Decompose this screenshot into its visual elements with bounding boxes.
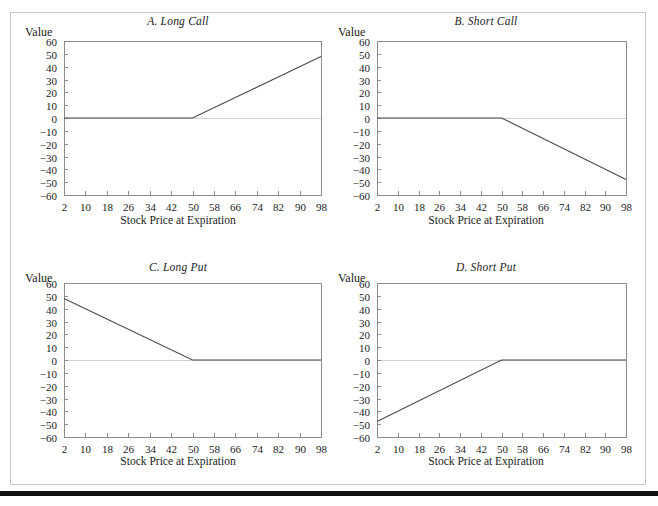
x-tick-label: 26 xyxy=(123,443,135,455)
x-tick-label: 18 xyxy=(414,443,426,455)
y-tick-label: 50 xyxy=(46,49,58,61)
x-tick-label: 58 xyxy=(517,201,529,213)
x-tick-label: 74 xyxy=(252,443,264,455)
y-tick-label: −30 xyxy=(353,394,371,406)
x-tick-label: 2 xyxy=(62,443,68,455)
plot-svg-c: 6050403020100−10−20−30−40−50−60210182634… xyxy=(23,261,333,456)
y-tick-label: 30 xyxy=(359,75,371,87)
chart-panel-long-put: C. Long Put Value 6050403020100−10−20−30… xyxy=(23,261,333,485)
x-tick-label: 74 xyxy=(559,443,571,455)
y-tick-label: −10 xyxy=(353,368,371,380)
x-tick-label: 66 xyxy=(230,443,242,455)
y-tick-label: −30 xyxy=(353,152,371,164)
x-tick-label: 42 xyxy=(166,443,177,455)
y-tick-label: 30 xyxy=(46,317,58,329)
y-tick-label: 30 xyxy=(46,75,58,87)
y-tick-label: 50 xyxy=(359,291,371,303)
x-tick-label: 50 xyxy=(497,201,509,213)
x-tick-label: 26 xyxy=(123,201,135,213)
y-tick-label: −10 xyxy=(40,368,58,380)
y-tick-label: 40 xyxy=(46,304,58,316)
y-tick-label: 0 xyxy=(52,355,58,367)
y-tick-label: 40 xyxy=(359,62,371,74)
x-axis-title-d: Stock Price at Expiration xyxy=(336,455,636,467)
x-tick-label: 26 xyxy=(434,201,446,213)
plot-svg-b: 6050403020100−10−20−30−40−50−60210182634… xyxy=(336,15,636,215)
y-tick-label: −10 xyxy=(353,126,371,138)
y-tick-label: −20 xyxy=(353,139,371,151)
y-tick-label: 20 xyxy=(46,87,58,99)
x-tick-label: 98 xyxy=(316,443,328,455)
x-tick-label: 66 xyxy=(538,443,550,455)
x-tick-label: 2 xyxy=(62,201,68,213)
y-tick-label: −40 xyxy=(353,406,371,418)
x-tick-label: 82 xyxy=(273,443,284,455)
figure-frame: A. Long Call Value 6050403020100−10−20−3… xyxy=(10,12,646,485)
x-tick-label: 74 xyxy=(559,201,571,213)
x-tick-label: 90 xyxy=(295,201,307,213)
y-tick-label: 50 xyxy=(46,291,58,303)
payoff-line xyxy=(377,118,626,180)
x-tick-label: 74 xyxy=(252,201,264,213)
chart-panel-short-call: B. Short Call Value 6050403020100−10−20−… xyxy=(336,15,636,249)
y-tick-label: 20 xyxy=(359,329,371,341)
x-tick-label: 42 xyxy=(166,201,177,213)
y-tick-label: −50 xyxy=(353,177,371,189)
y-tick-label: 10 xyxy=(46,100,58,112)
x-tick-label: 34 xyxy=(145,201,157,213)
x-tick-label: 18 xyxy=(102,201,114,213)
x-tick-label: 10 xyxy=(393,443,405,455)
x-tick-label: 10 xyxy=(80,443,92,455)
x-tick-label: 98 xyxy=(621,201,633,213)
plot-area-d: 6050403020100−10−20−30−40−50−60210182634… xyxy=(336,261,636,485)
y-tick-label: 0 xyxy=(365,355,371,367)
y-tick-label: −10 xyxy=(40,126,58,138)
x-tick-label: 66 xyxy=(538,201,550,213)
x-tick-label: 98 xyxy=(621,443,633,455)
payoff-line xyxy=(377,360,626,422)
y-tick-label: −40 xyxy=(40,164,58,176)
y-tick-label: 60 xyxy=(46,36,58,48)
y-tick-label: 10 xyxy=(359,342,371,354)
x-axis-title-b: Stock Price at Expiration xyxy=(336,214,636,226)
x-tick-label: 42 xyxy=(476,201,487,213)
x-tick-label: 10 xyxy=(80,201,92,213)
y-tick-label: −20 xyxy=(40,381,58,393)
x-tick-label: 26 xyxy=(434,443,446,455)
y-tick-label: 0 xyxy=(365,113,371,125)
y-tick-label: 30 xyxy=(359,317,371,329)
x-tick-label: 2 xyxy=(375,443,381,455)
y-tick-label: −60 xyxy=(353,432,371,444)
y-tick-label: 60 xyxy=(46,278,58,290)
payoff-line xyxy=(64,298,321,360)
chart-panel-long-call: A. Long Call Value 6050403020100−10−20−3… xyxy=(23,15,333,249)
y-tick-label: 40 xyxy=(359,304,371,316)
chart-panel-short-put: D. Short Put Value 6050403020100−10−20−3… xyxy=(336,261,636,485)
x-tick-label: 58 xyxy=(209,443,221,455)
x-tick-label: 58 xyxy=(209,201,221,213)
x-tick-label: 42 xyxy=(476,443,487,455)
y-tick-label: 0 xyxy=(52,113,58,125)
x-tick-label: 10 xyxy=(393,201,405,213)
plot-area-c: 6050403020100−10−20−30−40−50−60210182634… xyxy=(23,261,333,485)
y-tick-label: −60 xyxy=(40,432,58,444)
y-tick-label: 10 xyxy=(46,342,58,354)
y-tick-label: −50 xyxy=(40,177,58,189)
plot-svg-d: 6050403020100−10−20−30−40−50−60210182634… xyxy=(336,261,636,456)
y-tick-label: 40 xyxy=(46,62,58,74)
y-tick-label: −20 xyxy=(353,381,371,393)
x-tick-label: 50 xyxy=(188,443,200,455)
plot-svg-a: 6050403020100−10−20−30−40−50−60210182634… xyxy=(23,15,333,215)
x-tick-label: 50 xyxy=(497,443,509,455)
x-tick-label: 66 xyxy=(230,201,242,213)
x-tick-label: 34 xyxy=(145,443,157,455)
y-tick-label: −50 xyxy=(353,419,371,431)
x-tick-label: 90 xyxy=(600,443,612,455)
x-tick-label: 34 xyxy=(455,443,467,455)
y-tick-label: 20 xyxy=(46,329,58,341)
payoff-line xyxy=(64,56,321,118)
x-axis-title-a: Stock Price at Expiration xyxy=(23,214,333,226)
x-tick-label: 82 xyxy=(580,443,591,455)
x-tick-label: 98 xyxy=(316,201,328,213)
x-axis-title-c: Stock Price at Expiration xyxy=(23,455,333,467)
